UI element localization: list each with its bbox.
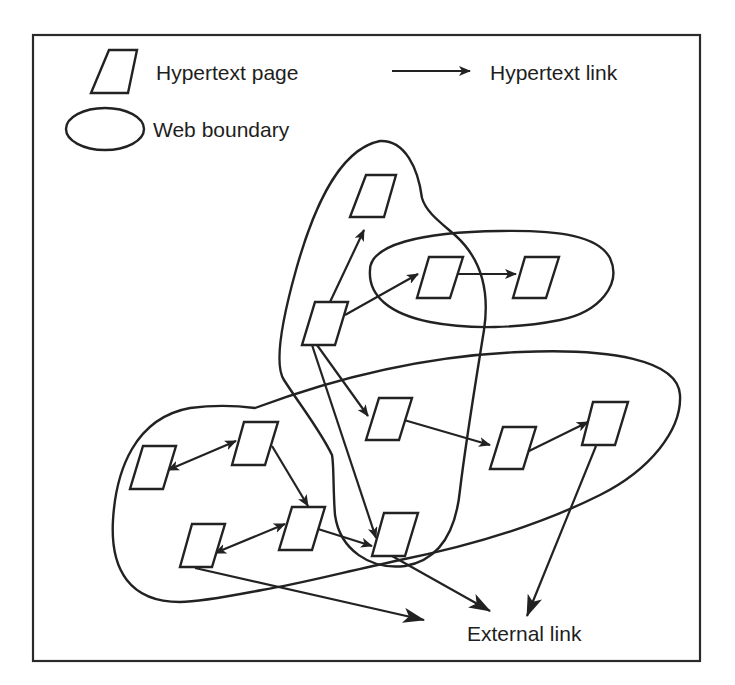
page-p5 [366,398,412,440]
web-diagram: Hypertext page Hypertext link Web bounda… [0,0,735,685]
page-p8 [130,446,176,489]
link-p4-p2 [345,274,418,315]
link-p12-external [392,556,490,611]
page-p4 [302,302,348,345]
link-p7-external [527,446,596,616]
legend-page-icon [91,50,137,93]
page-p11 [180,524,225,567]
link-p8-p9 [168,441,236,470]
legend-page-label: Hypertext page [156,61,298,84]
link-p5-p6 [404,420,490,445]
page-p6 [490,427,536,469]
page-p1 [350,175,396,217]
external-link-label: External link [467,622,582,645]
web-boundary-right [370,231,613,327]
legend-boundary-icon [66,108,144,150]
link-p10-p11 [215,524,285,553]
link-p9-p10 [272,446,308,506]
page-p7 [582,402,628,445]
legend: Hypertext page Hypertext link Web bounda… [66,50,618,150]
page-p12 [372,513,418,556]
legend-boundary-label: Web boundary [153,118,290,141]
page-p9 [232,422,278,465]
link-p11-external [195,568,424,620]
legend-link-label: Hypertext link [490,61,618,84]
link-p4-p1 [330,230,364,302]
page-p10 [279,507,325,550]
page-p3 [513,257,559,298]
page-p2 [417,257,463,298]
